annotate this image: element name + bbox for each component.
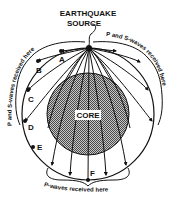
bottom-bracket-label: P-waves received here [43, 181, 108, 192]
core-label: CORE [76, 111, 100, 120]
point-e-label: E [37, 143, 43, 152]
title-earthquake: EARTHQUAKE [60, 9, 117, 18]
point-d-label: D [28, 123, 34, 132]
left-bracket-label: P and S-waves received here [7, 45, 36, 126]
point-f-label: F [90, 169, 95, 178]
earthquake-wave-diagram: EARTHQUAKE SOURCE CORE A B C D E F P and… [0, 0, 174, 202]
right-bracket-label: P and S-waves received here [106, 31, 168, 87]
title-source: SOURCE [67, 19, 102, 28]
point-b-label: B [36, 66, 42, 75]
point-c-label: C [28, 95, 34, 104]
point-a-label: A [59, 55, 65, 64]
earthquake-source-point [86, 45, 92, 51]
